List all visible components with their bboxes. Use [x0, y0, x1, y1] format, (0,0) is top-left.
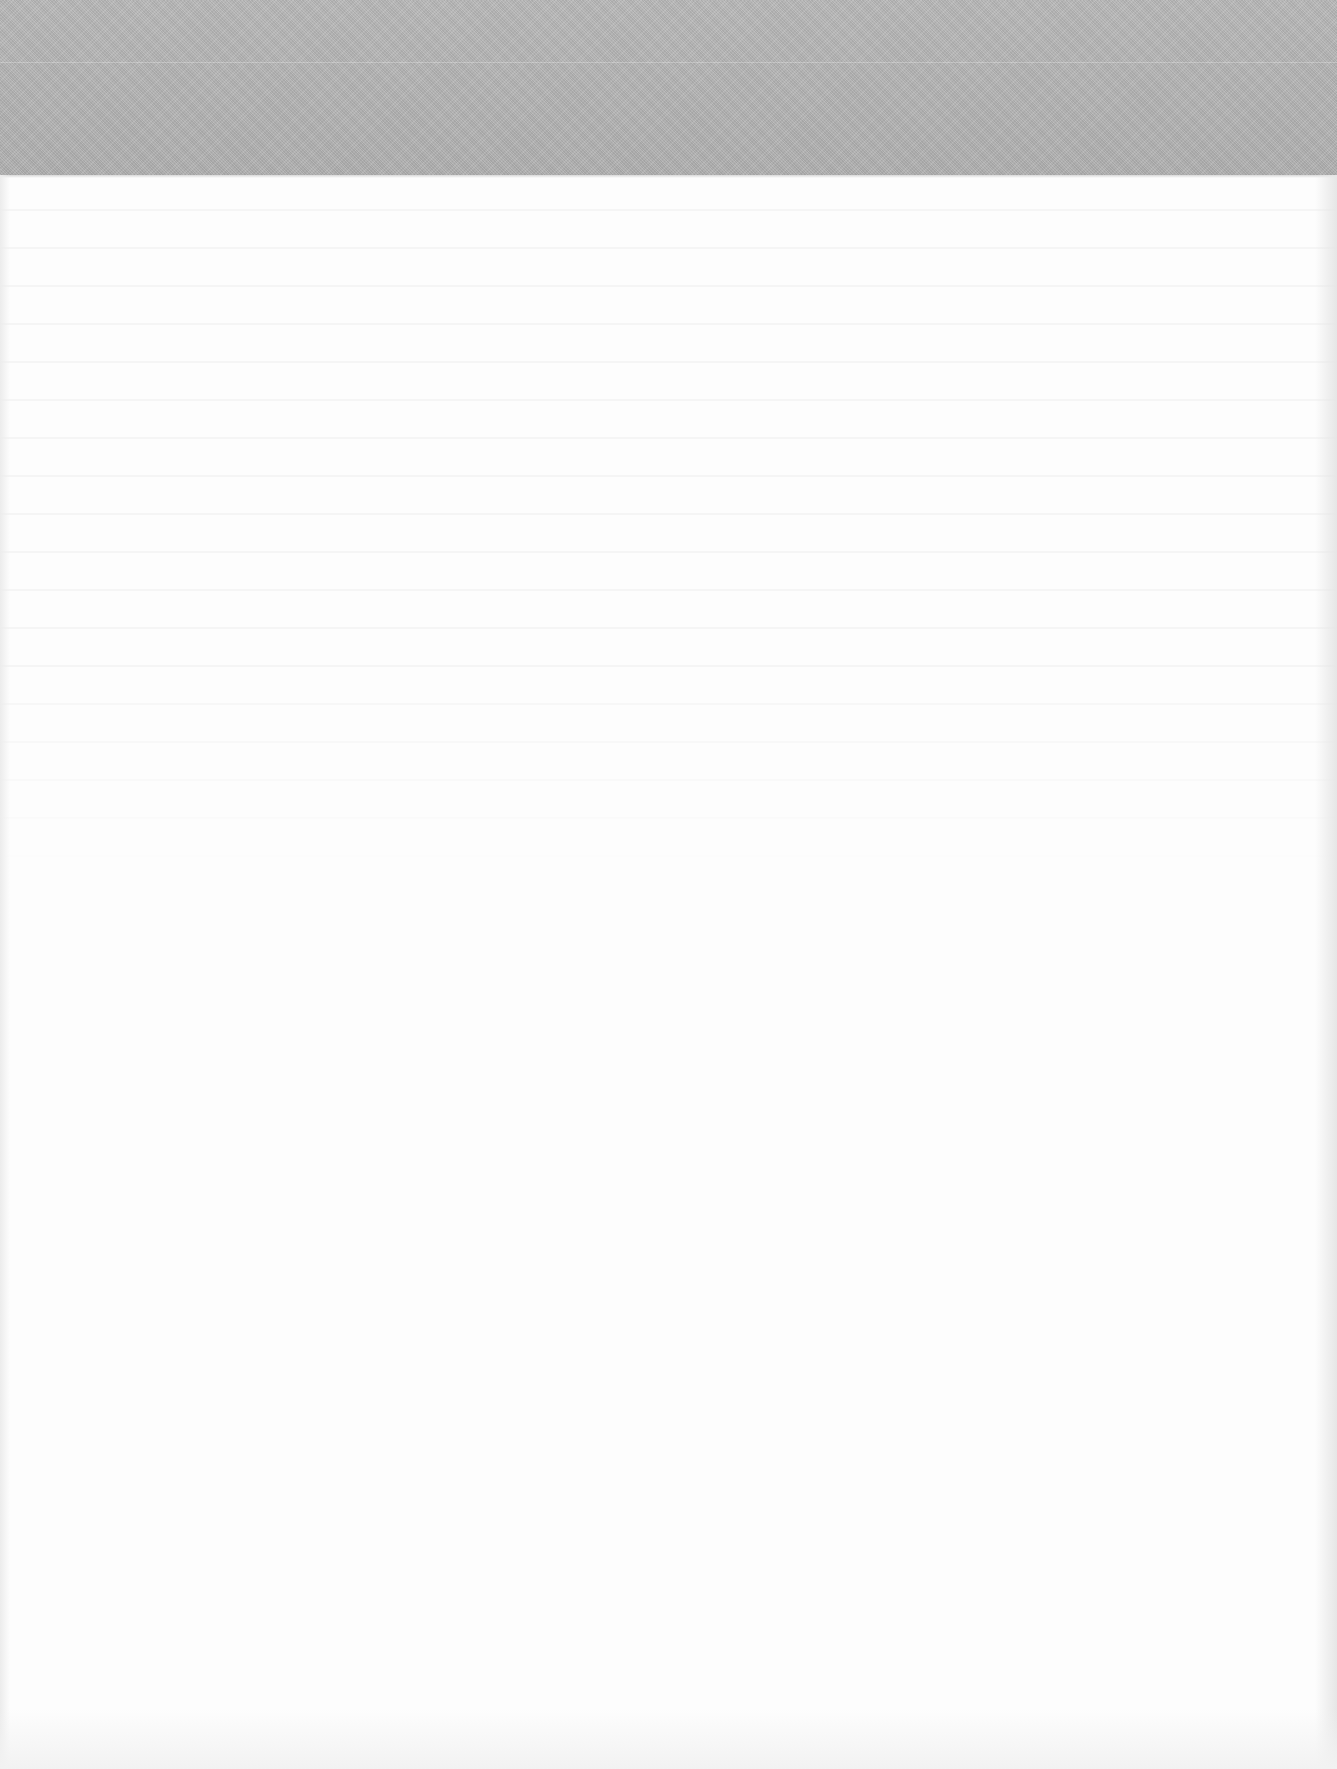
- page-right-edge: [1315, 175, 1337, 1769]
- scanned-page: [0, 0, 1337, 1769]
- band-crease-line: [0, 62, 1337, 63]
- page-bottom-edge: [0, 1709, 1337, 1769]
- reverse-side-show-through: [0, 175, 1337, 1769]
- page-left-edge: [0, 175, 10, 1769]
- gray-scan-band: [0, 0, 1337, 175]
